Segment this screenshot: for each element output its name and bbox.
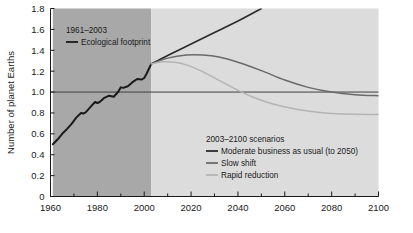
x-tick-label: 2000 (134, 202, 155, 213)
x-tick-label: 2080 (321, 202, 342, 213)
historical-legend-label: Ecological footprint (81, 38, 151, 47)
scenario-band (151, 9, 378, 197)
x-tick-label: 2040 (227, 202, 248, 213)
figure-container: 00.20.40.60.81.01.21.41.61.8196019802000… (0, 0, 413, 233)
y-tick-label: 1.6 (31, 24, 44, 35)
y-tick-label: 1.4 (31, 45, 44, 56)
y-tick-label: 0 (39, 191, 44, 202)
x-tick-label: 1980 (87, 202, 108, 213)
y-tick-label: 0.4 (31, 149, 44, 160)
y-tick-label: 0.6 (31, 128, 44, 139)
x-tick-label: 2100 (368, 202, 389, 213)
x-tick-label: 1960 (40, 202, 61, 213)
historical-legend-title: 1961–2003 (66, 26, 107, 35)
y-tick-label: 1.0 (31, 86, 44, 97)
scenarios-legend-label: Slow shift (221, 159, 257, 168)
scenarios-legend-label: Moderate business as usual (to 2050) (221, 147, 358, 156)
historical-band (53, 9, 151, 197)
y-tick-label: 0.2 (31, 170, 44, 181)
scenarios-legend-label: Rapid reduction (221, 171, 279, 180)
x-tick-label: 2060 (274, 202, 295, 213)
y-tick-label: 1.8 (31, 3, 44, 14)
chart-canvas: 00.20.40.60.81.01.21.41.61.8196019802000… (0, 0, 413, 233)
y-tick-label: 0.8 (31, 107, 44, 118)
y-tick-label: 1.2 (31, 66, 44, 77)
scenarios-legend-title: 2003–2100 scenarios (206, 135, 284, 144)
y-axis-title: Number of planet Earths (5, 51, 16, 154)
x-tick-label: 2020 (181, 202, 202, 213)
